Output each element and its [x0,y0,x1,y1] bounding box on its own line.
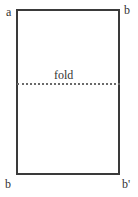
corner-label-top-left: a [6,6,11,18]
corner-label-bottom-left: b [5,178,11,190]
corner-label-bottom-right: b' [122,178,130,190]
corner-label-top-right: b [124,4,130,16]
paper-rectangle [16,9,120,175]
fold-label: fold [54,69,73,81]
fold-line [17,83,120,85]
